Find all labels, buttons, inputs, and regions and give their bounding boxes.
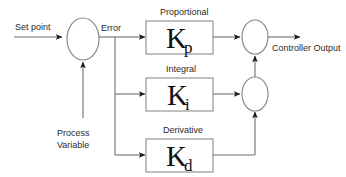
- diagram-canvas: Set point Process Variable Error Proport…: [0, 0, 346, 177]
- error-wire-group: [99, 37, 145, 155]
- proportional-caption: Proportional: [160, 7, 209, 17]
- error-label: Error: [101, 23, 121, 33]
- integral-gain-subscript: i: [185, 95, 190, 114]
- setpoint-label: Set point: [15, 22, 51, 32]
- derivative-output-wire-group: [213, 112, 255, 155]
- pid-block-diagram: Set point Process Variable Error Proport…: [0, 0, 346, 177]
- integral-caption: Integral: [166, 64, 196, 74]
- derivative-caption: Derivative: [163, 125, 203, 135]
- process-variable-label-line1: Process: [57, 128, 90, 138]
- derivative-gain-subscript: d: [184, 156, 193, 175]
- process-variable-label-line2: Variable: [57, 140, 89, 150]
- output-summing-junction-bottom: [242, 77, 268, 111]
- proportional-gain-subscript: p: [184, 38, 193, 57]
- error-summing-junction: [67, 18, 99, 60]
- output-summing-junction-top: [242, 20, 268, 54]
- controller-output-label: Controller Output: [272, 43, 341, 53]
